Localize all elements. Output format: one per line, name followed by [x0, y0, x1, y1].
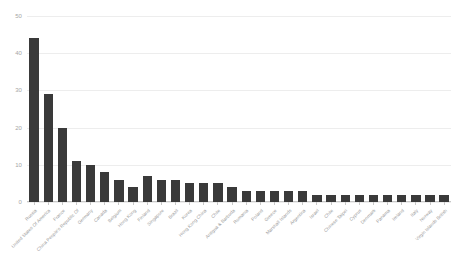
x-tick-slot: [338, 202, 352, 205]
bar[interactable]: [72, 161, 81, 202]
bar-slot: [310, 16, 324, 202]
x-axis-tick: [62, 202, 63, 205]
x-tick-slot: [310, 202, 324, 205]
bar-slot: [211, 16, 225, 202]
x-tick-slot: [168, 202, 182, 205]
x-axis-tick: [401, 202, 402, 205]
bar-series: [27, 16, 451, 202]
x-tick-slot: [112, 202, 126, 205]
bar-slot: [183, 16, 197, 202]
bar[interactable]: [284, 191, 293, 202]
bar[interactable]: [439, 195, 448, 202]
x-axis-tick: [288, 202, 289, 205]
bar[interactable]: [157, 180, 166, 202]
x-tick-slot: [381, 202, 395, 205]
y-axis-tick-label: 40: [15, 50, 22, 56]
bar[interactable]: [383, 195, 392, 202]
bar[interactable]: [312, 195, 321, 202]
bar[interactable]: [298, 191, 307, 202]
bar[interactable]: [143, 176, 152, 202]
x-axis-tick: [387, 202, 388, 205]
bar-slot: [267, 16, 281, 202]
bar[interactable]: [171, 180, 180, 202]
x-tick-slot: [423, 202, 437, 205]
y-axis-tick-label: 10: [15, 162, 22, 168]
y-axis-tick-label: 20: [15, 125, 22, 131]
y-axis-tick-label: 50: [15, 13, 22, 19]
bar[interactable]: [128, 187, 137, 202]
bar-slot: [239, 16, 253, 202]
x-label-slot: Israel: [310, 206, 324, 271]
bar[interactable]: [100, 172, 109, 202]
bar[interactable]: [44, 94, 53, 202]
y-axis-tick-label: 30: [15, 87, 22, 93]
x-axis-tick: [274, 202, 275, 205]
bar[interactable]: [397, 195, 406, 202]
x-axis-tick: [373, 202, 374, 205]
bar[interactable]: [411, 195, 420, 202]
bar-slot: [324, 16, 338, 202]
bar-slot: [168, 16, 182, 202]
x-axis-tick: [359, 202, 360, 205]
x-axis-category-label: Chile: [210, 208, 221, 219]
bar[interactable]: [369, 195, 378, 202]
bar[interactable]: [86, 165, 95, 202]
plot-area: 01020304050: [27, 16, 451, 202]
x-axis-tick: [331, 202, 332, 205]
bar-slot: [154, 16, 168, 202]
x-axis-tick: [189, 202, 190, 205]
x-axis-tick: [246, 202, 247, 205]
bar-slot: [352, 16, 366, 202]
bar-slot: [27, 16, 41, 202]
bar[interactable]: [213, 183, 222, 202]
bar-slot: [112, 16, 126, 202]
x-axis-category-label: Brazil: [167, 208, 179, 220]
x-tick-slot: [366, 202, 380, 205]
x-tick-slot: [296, 202, 310, 205]
bar[interactable]: [29, 38, 38, 202]
bar[interactable]: [256, 191, 265, 202]
bar[interactable]: [326, 195, 335, 202]
x-label-slot: Ireland: [395, 206, 409, 271]
bar[interactable]: [227, 187, 236, 202]
x-axis-tick: [260, 202, 261, 205]
bar[interactable]: [355, 195, 364, 202]
bar-slot: [338, 16, 352, 202]
x-tick-slot: [267, 202, 281, 205]
bar[interactable]: [199, 183, 208, 202]
x-axis-tick: [345, 202, 346, 205]
bar-slot: [55, 16, 69, 202]
x-axis-tick: [444, 202, 445, 205]
bar-slot: [225, 16, 239, 202]
x-tick-slot: [126, 202, 140, 205]
x-tick-slot: [395, 202, 409, 205]
x-axis-category-label: Korea: [181, 208, 193, 220]
x-axis-tick: [90, 202, 91, 205]
x-axis-tick: [133, 202, 134, 205]
x-tick-slot: [197, 202, 211, 205]
x-axis-tick: [161, 202, 162, 205]
x-tick-slot: [183, 202, 197, 205]
bar-slot: [126, 16, 140, 202]
bar[interactable]: [341, 195, 350, 202]
bar-slot: [253, 16, 267, 202]
bar[interactable]: [425, 195, 434, 202]
x-axis-tick: [147, 202, 148, 205]
bar-slot: [84, 16, 98, 202]
bar[interactable]: [242, 191, 251, 202]
x-axis-tick: [175, 202, 176, 205]
bar[interactable]: [58, 128, 67, 202]
x-tick-slot: [437, 202, 451, 205]
bar[interactable]: [185, 183, 194, 202]
bar-slot: [140, 16, 154, 202]
x-axis-tick: [430, 202, 431, 205]
bar[interactable]: [270, 191, 279, 202]
x-tick-slot: [69, 202, 83, 205]
bar-slot: [296, 16, 310, 202]
x-tick-slot: [239, 202, 253, 205]
x-tick-slot: [225, 202, 239, 205]
x-tick-slot: [41, 202, 55, 205]
bar-slot: [437, 16, 451, 202]
x-axis-tick: [203, 202, 204, 205]
bar[interactable]: [114, 180, 123, 202]
